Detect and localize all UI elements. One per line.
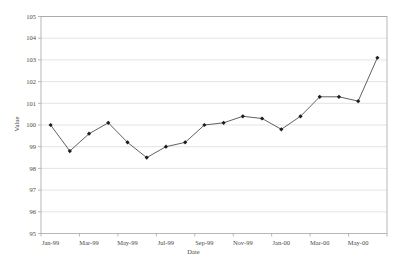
chart-window: 9596979899100101102103104105Jan-99Mar-99…: [0, 0, 407, 260]
x-tick-label: Mar-00: [310, 239, 329, 246]
data-point-marker[interactable]: [164, 145, 168, 149]
y-tick-label: 104: [26, 34, 37, 41]
data-point-marker[interactable]: [241, 114, 245, 118]
line-chart: 9596979899100101102103104105Jan-99Mar-99…: [0, 0, 407, 260]
y-tick-label: 100: [26, 121, 36, 128]
x-tick-label: May-00: [348, 239, 369, 246]
data-point-marker[interactable]: [356, 99, 360, 103]
y-tick-label: 97: [30, 186, 37, 193]
x-tick-label: Jan-99: [42, 239, 59, 246]
y-tick-label: 102: [26, 78, 36, 85]
x-tick-label: Jan-00: [273, 239, 290, 246]
data-point-marker[interactable]: [337, 95, 341, 99]
x-axis-title: Date: [0, 248, 387, 255]
y-axis-title: Value: [13, 117, 20, 132]
data-point-marker[interactable]: [260, 116, 264, 120]
y-tick-label: 101: [26, 100, 36, 107]
x-tick-label: May-99: [117, 239, 138, 246]
y-tick-label: 96: [30, 208, 37, 215]
x-tick-label: Mar-99: [79, 239, 98, 246]
series-line: [51, 58, 378, 158]
y-tick-label: 95: [30, 230, 37, 237]
y-tick-label: 99: [30, 143, 37, 150]
y-tick-label: 98: [30, 165, 37, 172]
x-tick-label: Nov-99: [233, 239, 253, 246]
data-point-marker[interactable]: [375, 56, 379, 60]
y-tick-label: 103: [26, 56, 36, 63]
y-tick-label: 105: [26, 13, 36, 20]
x-tick-label: Jul-99: [158, 239, 174, 246]
data-point-marker[interactable]: [222, 121, 226, 125]
x-tick-label: Sep-99: [195, 239, 213, 246]
